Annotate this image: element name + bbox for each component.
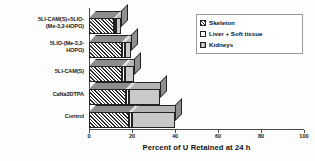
x-axis-tick-label: 80 xyxy=(258,133,264,139)
skeleton-swatch-icon xyxy=(200,20,206,26)
category-label-2: 5LI-CAM(S) xyxy=(55,68,84,75)
bar-side-face xyxy=(160,75,167,98)
x-axis-tick-label: 60 xyxy=(215,133,221,139)
bar-side-face xyxy=(121,4,128,27)
bar-segment-kidneys xyxy=(129,89,160,105)
x-axis-title: Percent of U Retained at 24 h xyxy=(89,143,304,152)
bar-row xyxy=(89,18,128,34)
kidneys-swatch-icon xyxy=(200,42,206,48)
chart-figure: 5LI-CAM(S)+5LIO- (Me-3,2-HOPO) 5LIO-(Me-… xyxy=(0,0,315,161)
category-label-4: Control xyxy=(65,113,84,120)
legend-item-liver: Liver + Soft tissue xyxy=(200,29,299,39)
x-axis-tick-label: 20 xyxy=(129,133,135,139)
bar-segment-skeleton xyxy=(89,66,122,82)
legend-item-skeleton: Skeleton xyxy=(200,18,299,28)
category-label-0: 5LI-CAM(S)+5LIO- (Me-3,2-HOPO) xyxy=(38,16,84,29)
bar-segment-skeleton xyxy=(89,42,122,58)
x-axis-tick-label: 100 xyxy=(299,133,308,139)
x-axis-tick-label: 0 xyxy=(87,133,90,139)
legend-label-liver: Liver + Soft tissue xyxy=(209,30,262,37)
bar-segment-kidneys xyxy=(132,112,175,128)
legend-label-skeleton: Skeleton xyxy=(209,19,235,26)
bar-segment-kidneys xyxy=(125,42,131,58)
bar-segment-skeleton xyxy=(89,18,114,34)
bar-row xyxy=(89,89,167,105)
legend-item-kidneys: Kidneys xyxy=(200,40,299,50)
bar-segment-kidneys xyxy=(125,66,134,82)
x-axis: 020406080100 xyxy=(89,130,304,142)
category-label-3: CaNa3DTPA xyxy=(53,91,84,98)
bar-segment-skeleton xyxy=(89,89,126,105)
y-axis-category-labels: 5LI-CAM(S)+5LIO- (Me-3,2-HOPO) 5LIO-(Me-… xyxy=(0,8,86,130)
bar-row xyxy=(89,112,182,128)
liver-swatch-icon xyxy=(200,31,206,37)
bar-row xyxy=(89,66,141,82)
bar-row xyxy=(89,42,138,58)
x-axis-tick-label: 40 xyxy=(172,133,178,139)
bar-side-face xyxy=(175,98,182,121)
legend-label-kidneys: Kidneys xyxy=(209,41,233,48)
chart-legend: Skeleton Liver + Soft tissue Kidneys xyxy=(196,14,303,54)
bar-side-face xyxy=(131,28,138,51)
bar-segment-skeleton xyxy=(89,112,129,128)
category-label-1: 5LIO-(Me-3,2- HOPO) xyxy=(50,40,84,53)
